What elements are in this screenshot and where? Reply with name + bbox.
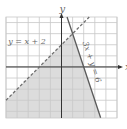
x-axis-arrow-icon	[118, 65, 123, 69]
inequality-graph: x y y = x + 2 3x + y = 6	[0, 0, 127, 129]
y-axis-label: y	[59, 3, 66, 14]
line-label-y-equals-x-plus-2: y = x + 2	[7, 37, 46, 46]
x-axis-label: x	[125, 61, 127, 72]
